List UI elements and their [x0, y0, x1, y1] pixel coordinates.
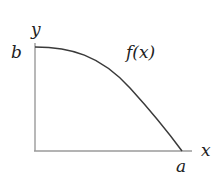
function-label: f(x): [124, 42, 155, 62]
x-axis-label: x: [201, 140, 211, 160]
function-diagram: y b f(x) a x: [0, 0, 219, 180]
b-label: b: [11, 42, 22, 62]
function-curve: [35, 47, 182, 151]
y-axis-label: y: [30, 19, 41, 39]
a-label: a: [176, 156, 186, 176]
